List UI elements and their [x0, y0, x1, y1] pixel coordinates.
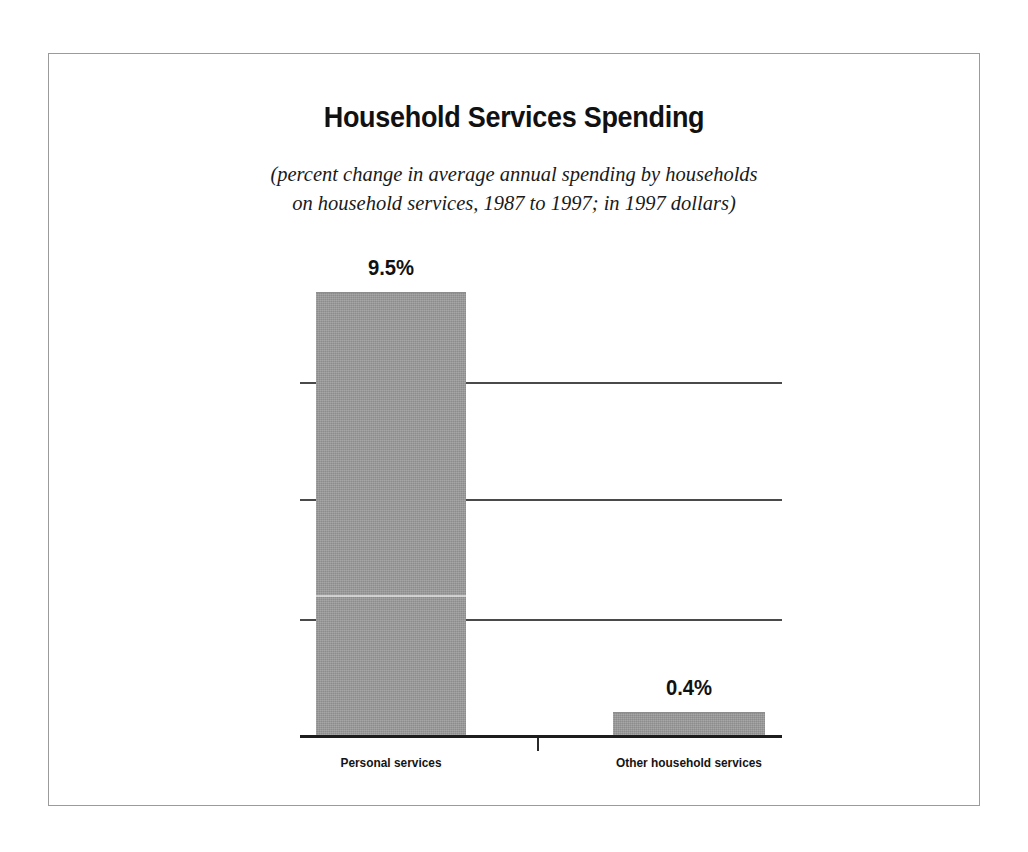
bar-value-label-personal-services: 9.5% — [322, 255, 460, 281]
scan-artifact-line — [316, 595, 466, 597]
bar-value-label-other-household-services: 0.4% — [619, 675, 759, 701]
plot-area: 9.5% 0.4% Personal services Other househ… — [0, 0, 1028, 852]
x-axis-line — [300, 735, 782, 738]
bar-other-household-services — [613, 712, 765, 737]
category-label-other-household-services: Other household services — [601, 755, 777, 770]
x-axis-category-tick — [537, 738, 539, 751]
chart-figure: Household Services Spending (percent cha… — [0, 0, 1028, 852]
category-label-personal-services: Personal services — [316, 755, 466, 770]
bar-personal-services — [316, 292, 466, 737]
